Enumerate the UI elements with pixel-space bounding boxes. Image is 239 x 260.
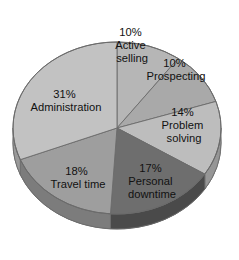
pie-chart-svg: 10% Active selling 10% Prospecting 14% P… bbox=[0, 0, 239, 260]
label-active-selling: 10% Active selling bbox=[115, 26, 149, 64]
pie-chart-container: 10% Active selling 10% Prospecting 14% P… bbox=[0, 0, 239, 260]
